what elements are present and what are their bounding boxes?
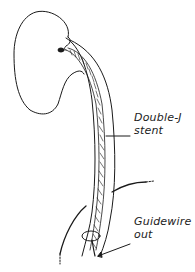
bladder-wall-right-dashed bbox=[146, 181, 154, 182]
bladder-wall-left bbox=[60, 206, 86, 254]
guidewire-arrowhead bbox=[98, 252, 102, 257]
stent-line-left bbox=[66, 50, 99, 250]
label-line: out bbox=[134, 228, 191, 241]
ureter-open-end bbox=[82, 231, 100, 241]
stent-tip bbox=[58, 48, 64, 52]
label-line: Guidewire bbox=[134, 215, 191, 228]
label-line: Double-J bbox=[134, 111, 182, 124]
kidney-outline bbox=[14, 11, 84, 114]
label-guidewire-out: Guidewire out bbox=[134, 215, 191, 241]
label-line: stent bbox=[134, 124, 182, 137]
guidewire-end bbox=[92, 240, 95, 256]
label-double-j-stent: Double-J stent bbox=[134, 111, 182, 137]
bladder-wall-right bbox=[112, 182, 146, 192]
